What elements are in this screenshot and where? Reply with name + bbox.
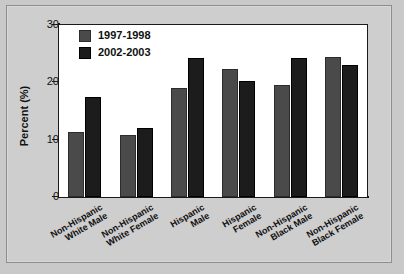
- legend: 1997-19982002-2003: [79, 29, 151, 63]
- legend-swatch-icon: [79, 30, 91, 42]
- bar: [120, 135, 136, 197]
- bar-chart-figure: Percent (%) 0102030 Non-Hispanic White M…: [0, 0, 404, 274]
- y-tick-label: 0: [17, 191, 59, 202]
- bar: [137, 128, 153, 197]
- legend-item: 1997-1998: [79, 29, 151, 42]
- y-tick-label: 10: [17, 134, 59, 145]
- legend-swatch-icon: [79, 47, 91, 59]
- bar: [222, 69, 238, 197]
- y-tick-label: 20: [17, 76, 59, 87]
- legend-label: 2002-2003: [98, 47, 151, 58]
- bar: [342, 65, 358, 197]
- y-tick-label: 30: [17, 19, 59, 30]
- bar: [274, 85, 290, 197]
- bar: [171, 88, 187, 198]
- bar: [188, 58, 204, 197]
- legend-item: 2002-2003: [79, 46, 151, 59]
- bar: [325, 57, 341, 197]
- legend-label: 1997-1998: [98, 30, 151, 41]
- bar: [239, 81, 255, 197]
- bar: [291, 58, 307, 197]
- bar: [68, 132, 84, 197]
- chart-panel: Percent (%) 0102030 Non-Hispanic White M…: [6, 5, 392, 263]
- bar: [85, 97, 101, 197]
